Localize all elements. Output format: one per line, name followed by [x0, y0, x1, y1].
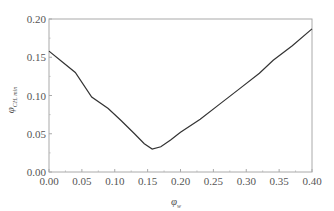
- plot-frame: [49, 19, 312, 172]
- y-tick-label: 0.15: [27, 51, 47, 63]
- chart: 0.000.050.100.150.200.250.300.350.40 0.0…: [0, 0, 334, 211]
- data-line: [49, 29, 312, 149]
- y-axis-ticks: 0.000.050.100.150.20: [27, 13, 52, 178]
- x-tick-label: 0.25: [204, 175, 224, 187]
- x-tick-label: 0.35: [270, 175, 290, 187]
- x-tick-label: 0.10: [105, 175, 125, 187]
- y-tick-label: 0.05: [27, 128, 47, 140]
- x-tick-label: 0.15: [138, 175, 158, 187]
- y-tick-label: 0.20: [27, 13, 47, 25]
- y-tick-label: 0.00: [27, 166, 47, 178]
- x-tick-label: 0.05: [72, 175, 92, 187]
- x-tick-label: 0.20: [171, 175, 191, 187]
- x-tick-label: 0.30: [237, 175, 257, 187]
- y-axis-label: φCH, min: [4, 87, 18, 113]
- x-tick-label: 0.40: [302, 175, 322, 187]
- x-axis-label: φw: [171, 195, 181, 209]
- y-tick-label: 0.10: [27, 90, 47, 102]
